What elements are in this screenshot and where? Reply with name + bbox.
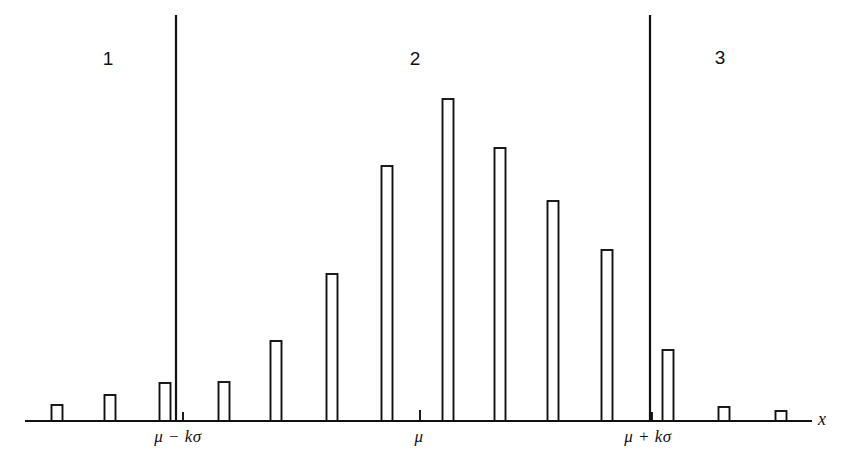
axis-tick-label: μ − kσ [154, 428, 201, 445]
axis-tick-label: μ + kσ [624, 428, 671, 445]
histogram-bar [52, 405, 63, 421]
histogram-bar [327, 274, 338, 421]
region-dividers-group [176, 15, 650, 421]
histogram-bar [719, 407, 730, 421]
axis-tick-label: μ [414, 428, 423, 445]
histogram-bar [663, 350, 674, 421]
chart-figure: 123 μ − kσμμ + kσ x [0, 0, 846, 459]
distribution-plot-svg [0, 0, 846, 459]
histogram-bar [382, 166, 393, 421]
region-number-label: 2 [410, 49, 421, 68]
histogram-bar [548, 201, 559, 421]
bars-group [52, 99, 787, 421]
region-number-label: 3 [715, 48, 726, 67]
histogram-bar [495, 148, 506, 421]
histogram-bar [602, 250, 613, 421]
x-axis-name-label: x [818, 410, 826, 428]
histogram-bar [160, 383, 171, 421]
histogram-bar [443, 99, 454, 421]
histogram-bar [776, 411, 787, 421]
histogram-bar [271, 341, 282, 421]
region-number-label: 1 [103, 49, 114, 68]
histogram-bar [219, 382, 230, 421]
axis-ticks-group [183, 410, 652, 421]
histogram-bar [105, 395, 116, 421]
